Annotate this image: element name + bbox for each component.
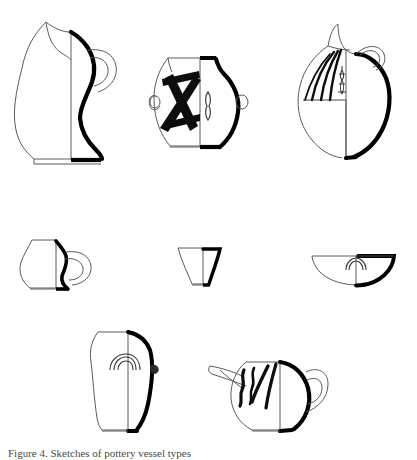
pottery-plate: Figure 4. Sketches of pottery vessel typ… bbox=[0, 0, 417, 460]
vessel-tall-ovoid-jar bbox=[80, 326, 180, 438]
vessel-beak-spouted-jug bbox=[290, 22, 410, 167]
figure-caption: Figure 4. Sketches of pottery vessel typ… bbox=[8, 447, 408, 460]
vessel-conical-beaker bbox=[172, 244, 234, 296]
vessel-hemispherical-bowl bbox=[308, 248, 404, 292]
vessel-spouted-teapot-vessel bbox=[206, 344, 334, 444]
figure-area bbox=[0, 0, 417, 440]
vessel-one-handled-cup bbox=[16, 236, 106, 298]
vessel-trefoil-mouth-pitcher bbox=[8, 14, 123, 174]
vessel-lug-handled-jar-with-cross-motif bbox=[148, 52, 253, 160]
